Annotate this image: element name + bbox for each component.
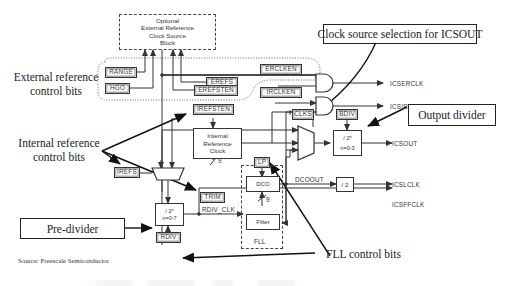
icsout-signal: ICSOUT	[392, 140, 417, 147]
dco-block: DCO	[246, 176, 280, 192]
optional-block-line3: Clock Source	[120, 32, 215, 39]
irc-line1: Internal	[207, 132, 228, 140]
icsffclk-signal: ICSFFCLK	[392, 201, 425, 208]
optional-external-reference-block: Optional External Reference Clock Source…	[119, 14, 216, 50]
output-divider-range: n=0-3	[340, 145, 354, 152]
optional-block-line4: Block	[120, 39, 215, 46]
pre-divider-callout: Pre-divider	[20, 218, 125, 239]
internal-reference-clock-block: Internal Reference Clock	[193, 128, 242, 159]
irclken-bit: IRCLKEN	[260, 87, 302, 98]
hgo-bit: HGO	[105, 83, 130, 94]
internal-reference-callout: Internal reference control bits	[15, 136, 103, 164]
trim-bit: TRIM	[200, 192, 225, 203]
dcoout-label: DCOOUT	[295, 176, 324, 183]
source-credit: Source: Freescale Semiconductor	[18, 257, 109, 264]
trim-bus-width: 9	[218, 157, 222, 164]
ics-block-diagram: Optional External Reference Clock Source…	[0, 0, 517, 286]
and-gate-icserclk	[316, 74, 333, 92]
fll-control-bits-callout: FLL control bits	[326, 248, 401, 260]
irc-line3: Clock	[210, 147, 225, 155]
bdiv-bit: BDIV	[336, 109, 358, 120]
filter-bus-width: 9	[266, 196, 270, 203]
clks-bit: CLKS	[292, 109, 314, 120]
optional-block-line1: Optional	[120, 17, 215, 24]
divide-by-2-block: / 2	[336, 177, 354, 192]
filter-block: Filter	[246, 214, 280, 230]
internal-reference-callout-line1: Internal reference	[15, 136, 103, 150]
erclken-bit: ERCLKEN	[260, 64, 302, 75]
external-reference-callout-line1: External reference	[12, 70, 100, 84]
icserclk-signal: ICSERCLK	[390, 80, 424, 87]
clock-source-selection-callout: Clock source selection for ICSOUT	[323, 24, 477, 44]
external-reference-callout-line2: control bits	[12, 84, 100, 98]
output-divider-formula: / 2ⁿ	[343, 135, 351, 142]
external-reference-callout: External reference control bits	[12, 70, 100, 98]
irefs-bit: IREFS	[114, 167, 140, 178]
internal-reference-callout-line2: control bits	[15, 150, 103, 164]
fll-label: FLL	[254, 238, 266, 245]
range-bit: RANGE	[105, 67, 137, 78]
output-divider-block: / 2ⁿ n=0-3	[333, 130, 362, 156]
rdiv-bit: RDIV	[156, 232, 181, 243]
optional-block-line2: External Reference	[120, 24, 215, 31]
rdiv-clk-label: RDIV_CLK	[202, 206, 235, 213]
lp-bit: LP	[254, 157, 270, 168]
irefsten-bit: IREFSTEN	[193, 104, 234, 115]
pre-divider-block: / 2ⁿ n=0-7	[155, 203, 184, 226]
pre-divider-formula: / 2ⁿ	[165, 208, 173, 215]
erefsten-bit: EREFSTEN	[194, 85, 238, 96]
output-divider-callout: Output divider	[408, 104, 496, 126]
irc-line2: Reference	[203, 140, 232, 148]
figure-caption-truncated	[80, 280, 330, 286]
icslclk-signal: ICSLCLK	[392, 181, 420, 188]
and-gate-icsirclk	[316, 97, 333, 115]
pre-divider-range: n=0-7	[162, 215, 176, 222]
